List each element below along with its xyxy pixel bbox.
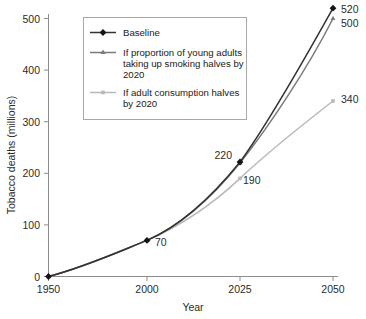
y-tick-label-200: 200	[22, 167, 40, 179]
tobacco-deaths-line-chart: 500 400 300 200 100 0 1950 2000 2025 205…	[0, 0, 366, 319]
x-tick-label-2025: 2025	[228, 283, 252, 295]
data-label-220: 220	[214, 149, 232, 161]
data-label-520: 520	[341, 3, 359, 15]
y-axis-title: Tobacco deaths (millions)	[5, 96, 17, 214]
marker-baseline-2000	[144, 237, 151, 244]
y-tick-label-400: 400	[22, 64, 40, 76]
y-tick-label-0: 0	[34, 271, 40, 283]
y-tick-label-500: 500	[22, 13, 40, 25]
x-tick-label-1950: 1950	[37, 283, 61, 295]
legend-marker-square-icon	[101, 91, 105, 95]
chart-svg: 500 400 300 200 100 0 1950 2000 2025 205…	[0, 0, 366, 319]
legend-label-young-adults-line2: taking up smoking halves by	[123, 58, 244, 69]
x-axis-title: Year	[182, 301, 204, 313]
marker-baseline-1950	[45, 273, 52, 280]
data-label-70: 70	[155, 236, 167, 248]
x-tick-labels: 1950 2000 2025 2050	[37, 283, 345, 295]
chart-legend: Baseline If proportion of young adults t…	[84, 18, 247, 120]
data-label-340: 340	[341, 93, 359, 105]
marker-adult-2025	[238, 177, 242, 181]
data-label-500: 500	[341, 17, 359, 29]
series-adult-consumption	[49, 99, 335, 276]
legend-label-young-adults-line1: If proportion of young adults	[123, 47, 242, 58]
marker-adult-2050	[331, 99, 335, 103]
y-tick-label-100: 100	[22, 219, 40, 231]
line-adult-consumption	[49, 101, 334, 277]
legend-label-adult-consumption-line1: If adult consumption halves	[123, 87, 239, 98]
marker-baseline-2050	[330, 5, 337, 12]
legend-label-baseline: Baseline	[123, 27, 160, 38]
legend-label-young-adults-line3: 2020	[123, 69, 144, 80]
legend-label-adult-consumption-line2: by 2020	[123, 98, 157, 109]
data-label-190: 190	[243, 174, 261, 186]
x-tick-label-2000: 2000	[135, 283, 159, 295]
y-tick-label-300: 300	[22, 116, 40, 128]
y-tick-labels: 500 400 300 200 100 0	[22, 13, 40, 283]
marker-young-2050	[331, 16, 336, 20]
x-tick-label-2050: 2050	[321, 283, 345, 295]
